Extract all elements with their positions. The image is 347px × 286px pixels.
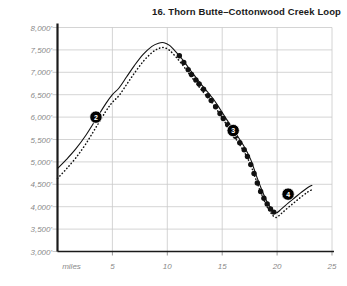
- waypoint-badge: 4: [282, 188, 294, 200]
- waypoint-badge: 2: [90, 111, 102, 123]
- chart-plot-area: 234: [0, 0, 347, 286]
- trail-dotted-line: [58, 48, 313, 218]
- waypoint-badge-label: 4: [286, 191, 290, 198]
- gridlines: [58, 28, 333, 252]
- trail-segment-dots: [177, 53, 277, 215]
- waypoint-badge-label: 2: [94, 114, 98, 121]
- elevation-profile-chart: 16. Thorn Butte–Cottonwood Creek Loop 3,…: [0, 0, 347, 286]
- waypoint-badge-label: 3: [231, 127, 235, 134]
- waypoint-badge: 3: [227, 124, 239, 136]
- waypoint-badges: 234: [90, 111, 295, 200]
